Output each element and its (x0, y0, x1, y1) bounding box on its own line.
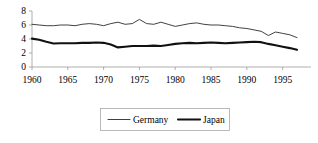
y-axis-tick-labels: 02468 (21, 6, 26, 72)
y-tick-label: 8 (21, 6, 26, 16)
series-line-japan (32, 39, 297, 50)
x-tick-label: 1960 (23, 75, 42, 85)
series-line-germany (32, 19, 297, 37)
y-tick-label: 0 (21, 62, 26, 72)
y-tick-label: 2 (21, 48, 26, 58)
y-tick-label: 4 (21, 34, 26, 44)
chart-canvas: 02468 19601965197019751980198519901995 G… (0, 0, 318, 143)
legend-label-japan: Japan (203, 115, 225, 125)
legend-label-germany: Germany (133, 115, 169, 125)
line-chart: 02468 19601965197019751980198519901995 G… (0, 0, 318, 143)
y-tick-label: 6 (21, 20, 26, 30)
x-tick-label: 1970 (94, 75, 113, 85)
x-tick-label: 1965 (58, 75, 77, 85)
x-axis-tick-labels: 19601965197019751980198519901995 (23, 75, 293, 85)
x-tick-label: 1985 (202, 75, 221, 85)
chart-legend: Germany Japan (101, 109, 230, 131)
x-tick-label: 1995 (273, 75, 292, 85)
x-axis-tick-marks (32, 67, 283, 70)
x-tick-label: 1990 (237, 75, 256, 85)
x-tick-label: 1975 (130, 75, 149, 85)
x-tick-label: 1980 (166, 75, 185, 85)
